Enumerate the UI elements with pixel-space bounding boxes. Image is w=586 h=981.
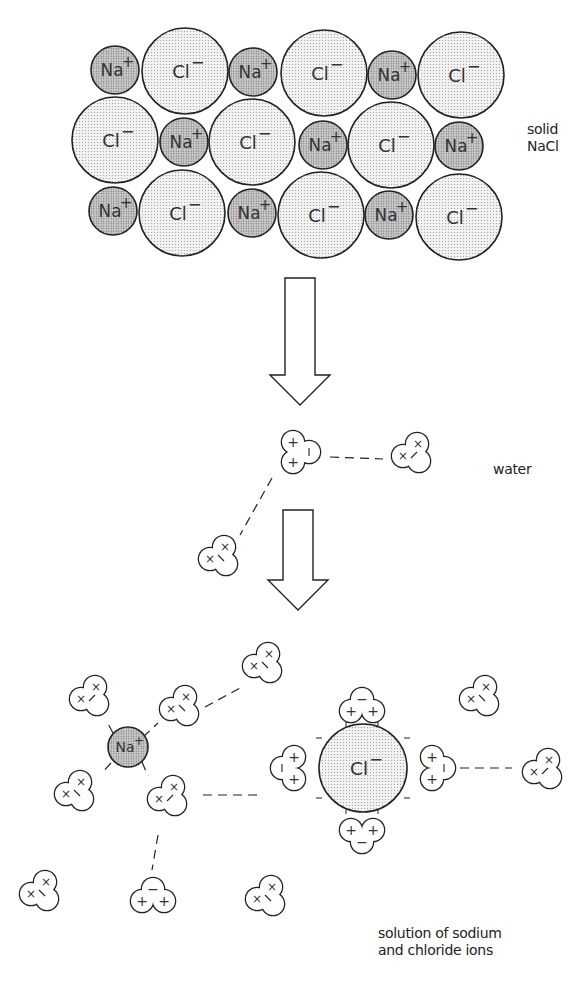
down-arrow-icon: [270, 278, 330, 405]
solution-label-line-1: solution of sodium: [378, 925, 502, 942]
svg-text:−: −: [327, 197, 341, 216]
svg-text:+: +: [191, 125, 204, 143]
water-molecules: ++××××××××××××××××++−××××++−++−++++××: [19, 430, 563, 917]
solid-nacl-lattice: Na+Cl−Na+Cl−Na+Cl−Cl−Na+Cl−Na+Cl−Na+Na+C…: [72, 28, 504, 260]
svg-text:×: ×: [413, 437, 423, 451]
chloride-ion-label: Cl: [172, 61, 190, 82]
svg-text:+: +: [134, 733, 145, 748]
svg-text:−: −: [356, 834, 368, 850]
svg-text:+: +: [260, 55, 273, 73]
chloride-ion: Cl−: [348, 102, 434, 188]
chloride-ion-label: Cl: [311, 63, 329, 84]
svg-text:×: ×: [466, 692, 476, 706]
svg-text:×: ×: [76, 692, 86, 706]
hydrated-chloride-ion: Cl−: [319, 724, 407, 812]
water-molecule: ××: [69, 675, 110, 717]
chloride-ion-label: Cl: [169, 203, 187, 224]
nacl-dissolution-diagram: Na+Cl−Na+Cl−Na+Cl−Cl−Na+Cl−Na+Cl−Na+Na+C…: [0, 0, 586, 981]
svg-text:−: −: [369, 750, 383, 769]
svg-text:+: +: [330, 128, 343, 146]
svg-text:−: −: [147, 881, 159, 897]
chloride-ion: Cl−: [281, 30, 367, 116]
svg-text:×: ×: [267, 880, 277, 894]
svg-text:×: ×: [169, 780, 179, 794]
svg-text:−: −: [121, 122, 135, 141]
sodium-ion-label: Na: [239, 62, 262, 82]
water-molecule: ××: [54, 770, 95, 812]
svg-text:−: −: [397, 127, 411, 146]
attraction-line: [205, 687, 242, 707]
solid-label-line-1: solid: [527, 121, 559, 138]
water-molecule: ××: [459, 675, 500, 717]
water-molecule: ++−: [339, 818, 386, 855]
svg-text:+: +: [367, 703, 379, 719]
chloride-ion-label: Cl: [446, 207, 464, 228]
svg-text:×: ×: [249, 659, 259, 673]
chloride-ion: Cl−: [418, 32, 504, 118]
svg-text:−: −: [191, 53, 205, 72]
chloride-ion-label: Cl: [102, 130, 120, 151]
attraction-line: [152, 835, 158, 870]
sodium-ion-label: Na: [170, 132, 193, 152]
svg-text:−: −: [258, 124, 272, 143]
water-molecule: ××: [522, 748, 563, 790]
chloride-ion: Cl−: [72, 97, 158, 183]
sodium-ion: Na+: [368, 51, 416, 99]
svg-text:+: +: [287, 434, 299, 450]
chloride-ion: Cl−: [139, 170, 225, 256]
svg-text:+: +: [288, 771, 300, 787]
svg-text:×: ×: [481, 680, 491, 694]
sodium-ion-label: Na: [375, 205, 398, 225]
water-molecule: ××: [159, 685, 200, 727]
chloride-ion: Cl−: [416, 174, 502, 260]
svg-text:×: ×: [61, 787, 71, 801]
svg-text:+: +: [259, 196, 272, 214]
svg-text:+: +: [287, 454, 299, 470]
sodium-ion: Na+: [299, 121, 347, 169]
attraction-line: [330, 457, 383, 459]
svg-text:−: −: [356, 691, 368, 707]
water-label-text: water: [493, 461, 531, 478]
svg-text:−: −: [467, 57, 481, 76]
svg-text:×: ×: [76, 775, 86, 789]
svg-text:×: ×: [181, 690, 191, 704]
solid-label-line-2: NaCl: [527, 138, 559, 155]
svg-text:+: +: [367, 822, 379, 838]
water-molecule: ++: [420, 745, 457, 792]
sodium-ion: Na+: [89, 187, 137, 235]
sodium-ion: Na+: [160, 118, 208, 166]
svg-text:+: +: [136, 893, 148, 909]
svg-text:+: +: [345, 703, 357, 719]
water-label: water: [493, 461, 531, 478]
svg-text:×: ×: [205, 552, 215, 566]
water-molecule: ++−: [339, 687, 386, 724]
water-molecule: ××: [245, 875, 286, 917]
sodium-ion-label: Na: [445, 136, 468, 156]
attraction-line: [240, 478, 272, 535]
svg-text:−: −: [188, 195, 202, 214]
svg-text:+: +: [158, 893, 170, 909]
chloride-ion-label: Cl: [239, 132, 257, 153]
svg-text:×: ×: [264, 647, 274, 661]
svg-text:×: ×: [91, 680, 101, 694]
svg-text:−: −: [330, 55, 344, 74]
water-molecule: ××: [19, 870, 60, 912]
chloride-ion-label: Cl: [308, 205, 326, 226]
water-molecule: ××: [391, 432, 432, 474]
attraction-line: [143, 723, 158, 737]
water-molecule: ××: [147, 775, 188, 817]
down-arrow-icon: [268, 510, 328, 610]
attraction-line: [142, 762, 148, 776]
hydrated-sodium-ion: Na+: [108, 727, 148, 767]
water-molecule: ××: [198, 535, 239, 577]
chloride-ion: Cl−: [278, 172, 364, 258]
svg-text:+: +: [122, 53, 135, 71]
sodium-ion-label: Na: [238, 203, 261, 223]
solid-nacl-label: solid NaCl: [527, 121, 559, 155]
sodium-ion: Na+: [435, 122, 483, 170]
svg-text:×: ×: [41, 875, 51, 889]
chloride-ion: Cl−: [142, 28, 228, 114]
svg-text:×: ×: [544, 753, 554, 767]
svg-text:×: ×: [166, 702, 176, 716]
solution-label: solution of sodium and chloride ions: [378, 925, 502, 959]
